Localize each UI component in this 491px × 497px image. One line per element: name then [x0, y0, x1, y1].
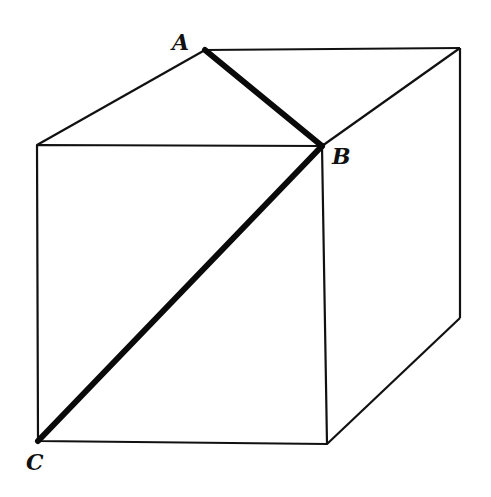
- label-b: B: [331, 143, 351, 169]
- label-c: C: [26, 449, 44, 475]
- edge-front-top-left-to-back-top-left: [37, 50, 205, 145]
- segment-ab: [205, 50, 322, 146]
- edge-back-top-right-to-front-top-right: [322, 48, 460, 146]
- label-a: A: [170, 29, 189, 55]
- segment-bc: [38, 146, 322, 441]
- edge-back-bottom-right-to-front-bottom-right: [327, 318, 460, 444]
- cube-diagram: A B C: [0, 0, 491, 497]
- edge-back-top: [205, 48, 460, 50]
